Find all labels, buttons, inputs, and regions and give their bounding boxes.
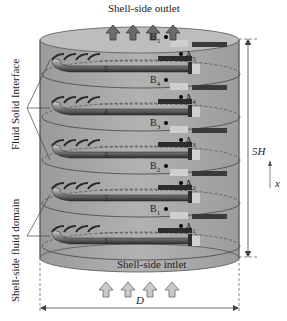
point-b5: B5 <box>150 32 160 45</box>
diameter-label: D <box>136 295 144 306</box>
point-a5: A5 <box>185 50 196 63</box>
shell-fluid-domain-label: Shell-side fluid domain <box>10 199 21 302</box>
stage-number-2: 2 <box>104 195 108 203</box>
point-b3: B3 <box>150 118 160 131</box>
stage-number-3: 3 <box>104 152 108 160</box>
heat-exchanger-diagram: Shell-side outlet Shell-side intlet Flui… <box>0 0 287 321</box>
point-a4: A4 <box>185 93 196 106</box>
stage-number-4: 4 <box>104 109 108 117</box>
axis-x-label: x <box>275 178 280 189</box>
stage-number-5: 5 <box>104 66 108 74</box>
point-b4: B4 <box>150 75 160 88</box>
height-dimension-label: 5H <box>252 146 265 157</box>
fluid-solid-interface-label: Fluid Solid Interface <box>10 59 21 150</box>
point-a3: A3 <box>185 136 196 149</box>
point-b2: B2 <box>150 161 160 174</box>
point-a1: A1 <box>185 222 196 235</box>
outlet-label: Shell-side outlet <box>108 3 180 14</box>
point-a2: A2 <box>185 179 196 192</box>
inlet-label: Shell-side intlet <box>117 259 186 270</box>
point-b1: B1 <box>150 204 160 217</box>
cylinder-drawing <box>0 0 287 321</box>
stage-number-1: 1 <box>104 238 108 246</box>
